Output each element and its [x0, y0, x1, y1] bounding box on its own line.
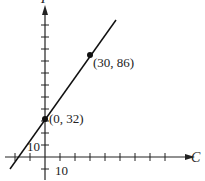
y-tick-label: 10 — [27, 139, 40, 154]
point-0-32 — [42, 116, 48, 122]
x-axis-label: C — [191, 150, 201, 165]
y-axis-arrow-icon — [42, 5, 48, 15]
data-line — [10, 20, 116, 169]
chart: (0, 32) (30, 86) 10 10 C F — [0, 0, 205, 181]
y-axis-label: F — [40, 0, 50, 6]
point2-label: (30, 86) — [93, 55, 134, 70]
x-tick-label: 10 — [55, 163, 68, 178]
point1-label: (0, 32) — [49, 111, 84, 126]
